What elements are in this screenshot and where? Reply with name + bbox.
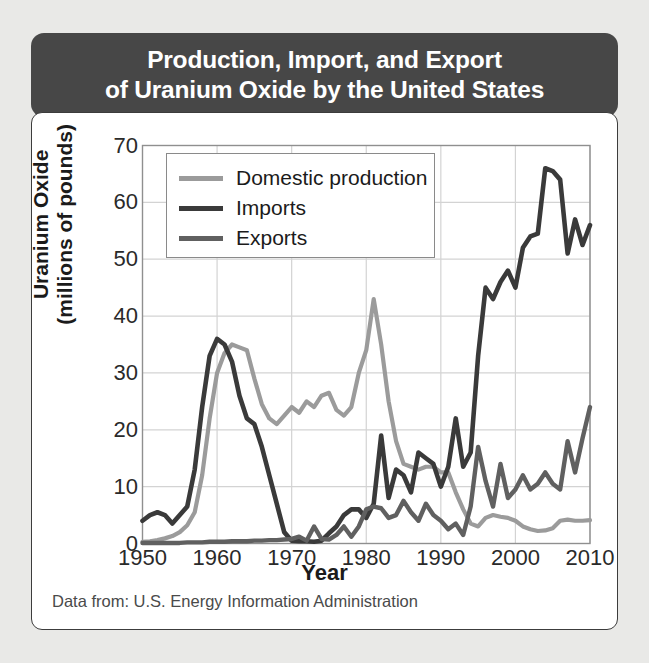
source-attribution: Data from: U.S. Energy Information Admin… [52,592,418,611]
legend-swatch-imports [179,206,223,211]
uranium-oxide-figure: Production, Import, and Export of Uraniu… [0,0,649,663]
legend-swatch-exports [179,236,223,241]
legend-swatch-domestic-production [179,176,223,181]
legend-label-domestic-production: Domestic production [236,166,427,190]
x-axis-title: Year [0,560,649,586]
legend-item-domestic-production: Domestic production [179,163,434,193]
legend-item-imports: Imports [179,193,434,223]
chart-legend: Domestic production Imports Exports [166,153,435,258]
legend-label-imports: Imports [236,196,306,220]
legend-item-exports: Exports [179,223,434,253]
legend-label-exports: Exports [236,226,307,250]
